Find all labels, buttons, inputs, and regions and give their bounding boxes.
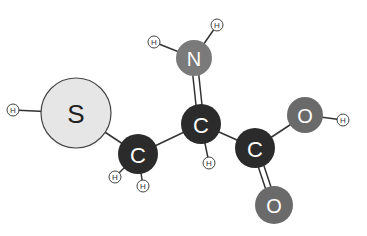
svg-text:C: C: [247, 137, 263, 162]
svg-text:C: C: [130, 143, 146, 168]
svg-text:H: H: [140, 182, 146, 191]
atom-n: N: [176, 40, 212, 76]
atom-h-c1b: H: [137, 180, 149, 192]
svg-text:O: O: [266, 195, 282, 217]
atom-o2: O: [255, 186, 293, 224]
svg-text:O: O: [297, 105, 313, 127]
svg-text:N: N: [187, 48, 201, 70]
svg-text:H: H: [206, 159, 212, 168]
atom-c3: C: [235, 128, 275, 168]
atom-o1: O: [287, 97, 323, 133]
atom-h-n1: H: [148, 36, 160, 48]
svg-text:H: H: [10, 106, 16, 115]
cysteine-diagram: S C C C N O O H H H H H H H: [0, 0, 367, 236]
atom-h-s: H: [7, 104, 19, 116]
svg-text:S: S: [67, 99, 84, 129]
svg-text:H: H: [112, 173, 118, 182]
atom-c2: C: [181, 104, 221, 144]
atom-h-n2: H: [211, 19, 223, 31]
atom-h-o: H: [337, 114, 349, 126]
svg-text:H: H: [340, 116, 346, 125]
atom-h-c1a: H: [109, 171, 121, 183]
atom-h-c2: H: [203, 157, 215, 169]
atom-c1: C: [118, 134, 158, 174]
svg-text:H: H: [214, 21, 220, 30]
svg-text:H: H: [151, 38, 157, 47]
svg-text:C: C: [193, 113, 209, 138]
atom-s: S: [41, 78, 111, 148]
